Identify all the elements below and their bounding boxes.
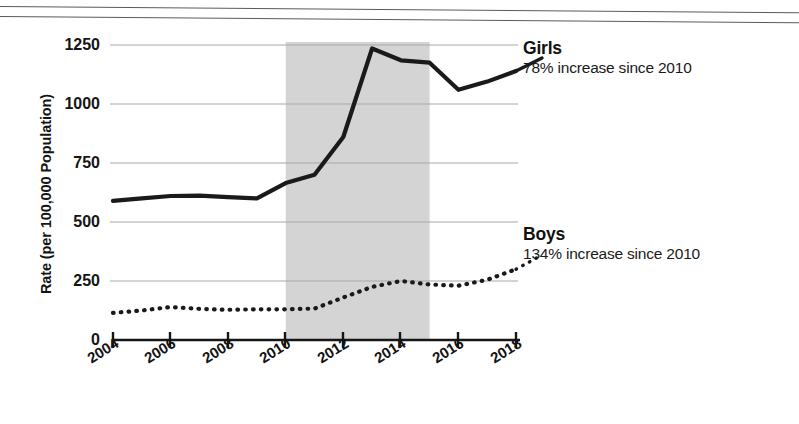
legend-annotation-boys: Boys 134% increase since 2010 — [523, 224, 700, 264]
legend-subtitle-girls: 78% increase since 2010 — [523, 58, 692, 78]
legend-annotation-girls: Girls 78% increase since 2010 — [523, 38, 692, 78]
legend-subtitle-boys: 134% increase since 2010 — [523, 244, 700, 264]
chart-figure: Rate (per 100,000 Population) 1250 1000 … — [0, 0, 799, 424]
legend-title-boys: Boys — [523, 224, 700, 244]
legend-title-girls: Girls — [523, 38, 692, 58]
line-chart-plot-area: Rate (per 100,000 Population) 1250 1000 … — [0, 0, 799, 424]
